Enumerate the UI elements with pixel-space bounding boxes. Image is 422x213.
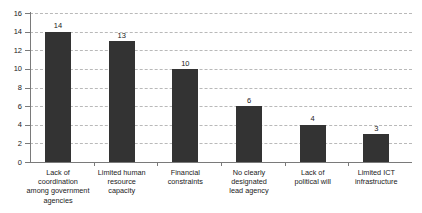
bar-lack-of-coordination[interactable] [45, 32, 71, 162]
bar-lack-of-political-will[interactable] [300, 125, 326, 162]
bar-value-lack-of-political-will: 4 [293, 115, 333, 123]
bar-value-no-clearly-designated-lead-agency: 6 [229, 97, 269, 105]
bar-financial-constraints[interactable] [172, 69, 198, 162]
bar-no-clearly-designated-lead-agency[interactable] [236, 106, 262, 162]
x-category-label-lack-of-political-will: Lack of political will [281, 168, 345, 186]
bar-value-financial-constraints: 10 [165, 60, 205, 68]
x-category-label-no-clearly-designated-lead-agency: No clearly designated lead agency [217, 168, 281, 196]
bars-layer: 14 Lack of coordination among government… [0, 0, 422, 213]
x-category-label-lack-of-coordination: Lack of coordination among government ag… [26, 168, 90, 205]
bar-value-limited-human-resource-capacity: 13 [102, 32, 142, 40]
bar-chart: 16 14 12 10 8 6 4 2 0 14 Lack of coordin… [0, 0, 422, 213]
bar-limited-human-resource-capacity[interactable] [109, 41, 135, 162]
bar-limited-ict-infrastructure[interactable] [363, 134, 389, 162]
x-category-label-financial-constraints: Financial constraints [153, 168, 217, 186]
bar-value-limited-ict-infrastructure: 3 [356, 125, 396, 133]
x-category-label-limited-ict-infrastructure: Limited ICT infrastructure [344, 168, 408, 186]
x-category-label-limited-human-resource-capacity: Limited human resource capacity [90, 168, 154, 196]
bar-value-lack-of-coordination: 14 [38, 22, 78, 30]
